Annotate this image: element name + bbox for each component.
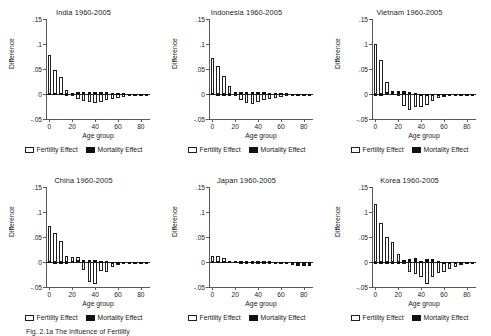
y-tick-label: .15 — [359, 184, 368, 191]
y-tick — [369, 212, 372, 213]
bar-mortality-effect — [222, 94, 226, 96]
bar-mortality-effect — [93, 260, 97, 262]
bar-mortality-effect — [71, 93, 75, 95]
bar-mortality-effect — [274, 93, 278, 95]
bar-mortality-effect — [414, 93, 418, 95]
x-axis-line — [209, 287, 313, 288]
legend-entry-fertility: Fertility Effect — [188, 146, 241, 153]
panel-legend: Fertility EffectMortality Effect — [328, 146, 491, 153]
x-tick-label: 80 — [300, 123, 307, 130]
bar-mortality-effect — [82, 260, 86, 263]
y-tick-label: -.05 — [357, 116, 368, 123]
y-tick-label: -.05 — [31, 116, 42, 123]
legend-entry-mortality: Mortality Effect — [86, 314, 143, 321]
y-tick — [369, 94, 372, 95]
y-tick-label: .05 — [196, 234, 205, 241]
bar-mortality-effect — [245, 261, 249, 263]
x-axis-line — [209, 119, 313, 120]
x-tick — [49, 287, 50, 290]
bar-mortality-effect — [397, 262, 401, 264]
y-tick-label: .15 — [33, 16, 42, 23]
bar-fertility-effect — [48, 226, 52, 262]
bar-mortality-effect — [139, 94, 143, 96]
panel-title: Vietnam 1960-2005 — [328, 8, 491, 17]
panel-legend: Fertility EffectMortality Effect — [165, 146, 328, 153]
y-tick — [43, 187, 46, 188]
x-tick-label: 40 — [254, 291, 261, 298]
x-tick — [421, 287, 422, 290]
bar-mortality-effect — [59, 262, 63, 264]
legend-label-mortality: Mortality Effect — [261, 146, 306, 153]
bar-mortality-effect — [391, 262, 395, 264]
x-tick — [235, 119, 236, 122]
x-tick-label: 0 — [211, 123, 215, 130]
x-tick — [281, 287, 282, 290]
legend-swatch-fertility-icon — [351, 147, 360, 153]
bar-mortality-effect — [274, 262, 278, 264]
y-tick-label: .1 — [37, 41, 43, 48]
x-tick — [467, 119, 468, 122]
y-tick — [206, 237, 209, 238]
bar-mortality-effect — [76, 260, 80, 262]
y-tick — [369, 44, 372, 45]
bar-mortality-effect — [222, 261, 226, 263]
plot-area: -.050.05.1.15020406080 — [372, 187, 476, 287]
y-axis-line — [209, 187, 210, 287]
x-axis-title: Age group — [46, 300, 150, 307]
x-tick — [281, 119, 282, 122]
bar-mortality-effect — [437, 94, 441, 96]
x-tick-label: 40 — [254, 123, 261, 130]
bar-mortality-effect — [471, 94, 475, 96]
bar-mortality-effect — [391, 91, 395, 94]
bar-mortality-effect — [211, 93, 215, 95]
chart-panel-vietnam: Vietnam 1960-2005DifferenceAge group-.05… — [328, 6, 491, 166]
legend-swatch-fertility-icon — [25, 147, 34, 153]
y-tick-label: 0 — [201, 91, 205, 98]
y-tick-label: 0 — [201, 259, 205, 266]
bar-mortality-effect — [431, 94, 435, 96]
x-tick-label: 20 — [395, 291, 402, 298]
y-tick — [206, 187, 209, 188]
bar-mortality-effect — [285, 262, 289, 264]
y-tick — [43, 237, 46, 238]
bar-mortality-effect — [296, 94, 300, 96]
legend-swatch-fertility-icon — [351, 315, 360, 321]
bar-mortality-effect — [216, 261, 220, 263]
y-tick-label: 0 — [38, 259, 42, 266]
x-tick-label: 20 — [232, 123, 239, 130]
bar-mortality-effect — [296, 262, 300, 266]
bar-fertility-effect — [385, 237, 389, 263]
legend-label-mortality: Mortality Effect — [98, 314, 143, 321]
bar-mortality-effect — [402, 260, 406, 263]
legend-swatch-mortality-icon — [412, 147, 421, 153]
y-axis-title: Difference — [334, 38, 341, 69]
bar-mortality-effect — [442, 94, 446, 96]
x-axis-title: Age group — [209, 300, 313, 307]
bar-mortality-effect — [82, 92, 86, 95]
panel-legend: Fertility EffectMortality Effect — [165, 314, 328, 321]
bar-mortality-effect — [99, 261, 103, 263]
legend-label-fertility: Fertility Effect — [363, 146, 404, 153]
legend-label-mortality: Mortality Effect — [98, 146, 143, 153]
bar-mortality-effect — [459, 94, 463, 96]
bar-mortality-effect — [302, 262, 306, 266]
bar-fertility-effect — [105, 94, 109, 100]
y-tick — [369, 262, 372, 263]
panel-title: Indonesia 1960-2005 — [165, 8, 328, 17]
y-tick-label: .1 — [37, 209, 43, 216]
bar-mortality-effect — [65, 94, 69, 96]
bar-mortality-effect — [268, 93, 272, 95]
x-axis-title: Age group — [46, 132, 150, 139]
y-tick — [369, 119, 372, 120]
panel-legend: Fertility EffectMortality Effect — [2, 314, 165, 321]
bar-mortality-effect — [53, 262, 57, 264]
bar-mortality-effect — [442, 262, 446, 264]
bar-mortality-effect — [419, 94, 423, 96]
bar-mortality-effect — [105, 261, 109, 263]
y-tick — [206, 19, 209, 20]
y-tick-label: 0 — [364, 91, 368, 98]
bar-fertility-effect — [99, 262, 103, 271]
x-tick-label: 60 — [277, 123, 284, 130]
y-tick — [43, 69, 46, 70]
bar-mortality-effect — [374, 94, 378, 96]
